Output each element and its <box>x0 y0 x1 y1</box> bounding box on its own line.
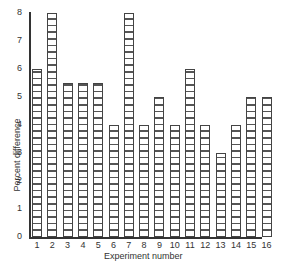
x-tick-label: 10 <box>167 240 183 250</box>
x-tick-label: 4 <box>75 240 91 250</box>
bar-experiment-2 <box>47 13 57 237</box>
bar-experiment-14 <box>231 125 241 237</box>
x-axis-line <box>29 237 262 239</box>
bar-experiment-4 <box>78 83 88 237</box>
bar-experiment-13 <box>216 153 226 237</box>
bar-experiment-11 <box>185 69 195 237</box>
y-tick-label: 5 <box>8 91 22 101</box>
bar-experiment-16 <box>262 97 272 237</box>
bar-experiment-8 <box>139 125 149 237</box>
y-axis-label: Percent difference <box>12 110 22 200</box>
y-tick-label: 1 <box>8 203 22 213</box>
x-tick-label: 12 <box>197 240 213 250</box>
x-tick-label: 16 <box>259 240 275 250</box>
y-tick-label: 8 <box>8 7 22 17</box>
bar-experiment-1 <box>32 69 42 237</box>
y-tick-label: 7 <box>8 35 22 45</box>
bar-experiment-5 <box>93 83 103 237</box>
bar-chart: 012345678 12345678910111213141516 Percen… <box>0 0 285 266</box>
y-tick-label: 0 <box>8 231 22 241</box>
x-tick-label: 2 <box>44 240 60 250</box>
x-tick-label: 5 <box>90 240 106 250</box>
bar-experiment-6 <box>109 125 119 237</box>
bar-experiment-10 <box>170 125 180 237</box>
x-tick-label: 1 <box>29 240 45 250</box>
x-axis-label: Experiment number <box>104 251 183 261</box>
y-tick-label: 6 <box>8 63 22 73</box>
bar-experiment-3 <box>63 83 73 237</box>
x-tick-label: 7 <box>121 240 137 250</box>
x-tick-label: 13 <box>213 240 229 250</box>
y-axis-line <box>29 12 31 238</box>
x-tick-label: 8 <box>136 240 152 250</box>
bar-experiment-7 <box>124 13 134 237</box>
bar-experiment-12 <box>200 125 210 237</box>
bar-experiment-15 <box>246 97 256 237</box>
x-tick-label: 6 <box>106 240 122 250</box>
bar-experiment-9 <box>154 97 164 237</box>
x-tick-label: 15 <box>243 240 259 250</box>
x-tick-label: 3 <box>60 240 76 250</box>
x-tick-label: 9 <box>151 240 167 250</box>
x-tick-label: 14 <box>228 240 244 250</box>
x-tick-label: 11 <box>182 240 198 250</box>
